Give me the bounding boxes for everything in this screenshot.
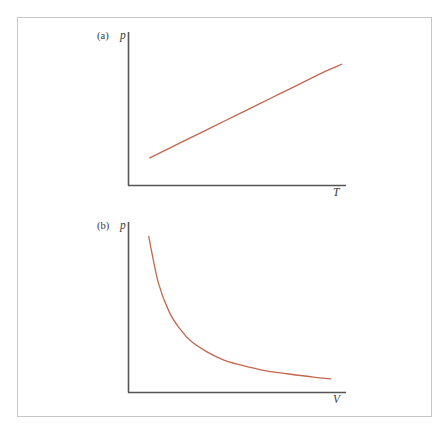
chart-b-svg	[0, 0, 448, 434]
chart-b-x-axis-label: V	[333, 393, 340, 405]
chart-b-data-curve	[149, 236, 331, 378]
chart-b-y-axis-label: p	[120, 219, 126, 231]
figure-root: (a) p T (b) p V	[0, 0, 448, 434]
chart-panel-b: (b) p V	[0, 0, 448, 434]
panel-b-tag: (b)	[97, 220, 109, 231]
